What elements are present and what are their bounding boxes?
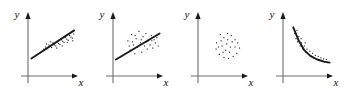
data-point xyxy=(129,45,130,46)
data-point xyxy=(223,57,224,58)
data-point xyxy=(46,43,47,44)
data-point xyxy=(218,46,219,47)
x-axis-label: x xyxy=(248,76,254,88)
data-point xyxy=(133,44,134,45)
data-point xyxy=(55,45,56,46)
data-point xyxy=(147,49,148,50)
data-point xyxy=(302,49,303,50)
data-point xyxy=(136,38,137,39)
data-point xyxy=(227,39,228,40)
data-point xyxy=(309,51,310,52)
data-point xyxy=(52,42,53,43)
data-point xyxy=(131,34,132,35)
data-point xyxy=(234,39,235,40)
y-axis-arrowhead xyxy=(195,12,200,19)
data-point xyxy=(305,42,306,43)
data-point xyxy=(222,45,223,46)
data-point xyxy=(67,42,68,43)
data-point xyxy=(43,49,44,50)
data-point xyxy=(298,36,299,37)
data-point xyxy=(59,44,60,45)
data-point xyxy=(319,60,320,61)
data-point xyxy=(54,44,55,45)
data-point xyxy=(324,62,325,63)
axes xyxy=(191,17,245,83)
data-point xyxy=(301,42,302,43)
data-point xyxy=(232,41,233,42)
data-point xyxy=(229,52,230,53)
data-point xyxy=(307,49,308,50)
data-point xyxy=(138,31,139,32)
data-point xyxy=(300,45,301,46)
data-point xyxy=(151,40,152,41)
data-point xyxy=(294,33,295,34)
data-point xyxy=(216,42,217,43)
data-point xyxy=(326,59,327,60)
data-point xyxy=(236,53,237,54)
axes xyxy=(21,17,75,83)
data-point xyxy=(70,37,71,38)
data-point xyxy=(145,33,146,34)
y-axis-arrowhead xyxy=(110,12,115,19)
data-point xyxy=(73,33,74,34)
data-point xyxy=(151,35,152,36)
data-point xyxy=(234,46,235,47)
data-point xyxy=(216,49,217,50)
data-point xyxy=(130,50,131,51)
data-point xyxy=(152,48,153,49)
data-point xyxy=(231,35,232,36)
x-axis-label: x xyxy=(333,76,339,88)
data-point xyxy=(143,36,144,37)
data-point xyxy=(141,52,142,53)
correlation-scatterplot-figure: yxyxyxyx xyxy=(0,0,350,92)
data-point xyxy=(322,61,323,62)
scatterplot-panel-3: yx xyxy=(170,0,255,92)
data-point xyxy=(222,52,223,53)
x-axis-arrowhead xyxy=(72,73,78,78)
y-axis-arrowhead xyxy=(280,12,285,19)
data-points xyxy=(216,33,241,59)
data-point xyxy=(69,35,70,36)
data-point xyxy=(295,38,296,39)
data-point xyxy=(68,40,69,41)
y-axis-arrowhead xyxy=(25,12,30,19)
data-point xyxy=(316,59,317,60)
data-point xyxy=(72,38,73,39)
data-point xyxy=(318,56,319,57)
data-point xyxy=(137,46,138,47)
data-point xyxy=(51,47,52,48)
data-point xyxy=(297,41,298,42)
data-point xyxy=(312,53,313,54)
data-point xyxy=(327,62,328,63)
data-point xyxy=(156,37,157,38)
data-point xyxy=(50,45,51,46)
data-point xyxy=(320,57,321,58)
data-point xyxy=(219,54,220,55)
x-axis-arrowhead xyxy=(242,73,248,78)
y-axis-label: y xyxy=(269,8,275,20)
data-point xyxy=(135,35,136,36)
data-point xyxy=(323,58,324,59)
data-point xyxy=(301,38,302,39)
data-point xyxy=(239,48,240,49)
axes xyxy=(276,17,330,83)
data-point xyxy=(146,41,147,42)
data-point xyxy=(225,50,226,51)
data-point xyxy=(56,48,57,49)
data-point xyxy=(304,45,305,46)
data-point xyxy=(132,41,133,42)
scatterplot-panel-1: yx xyxy=(0,0,85,92)
data-point xyxy=(45,46,46,47)
data-point xyxy=(308,54,309,55)
x-axis-arrowhead xyxy=(157,73,163,78)
data-point xyxy=(227,33,228,34)
data-point xyxy=(233,56,234,57)
data-point xyxy=(134,53,135,54)
fit-line xyxy=(31,30,74,58)
data-point xyxy=(47,48,48,49)
data-point xyxy=(220,34,221,35)
data-point xyxy=(155,42,156,43)
y-axis-label: y xyxy=(184,8,190,20)
data-point xyxy=(50,41,51,42)
data-point xyxy=(66,39,67,40)
